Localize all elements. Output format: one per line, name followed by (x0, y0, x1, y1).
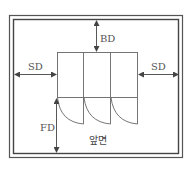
right-side-distance-dimension: SD (139, 61, 178, 75)
door-swing-arc-2 (84, 98, 111, 125)
room-inner-border (14, 20, 179, 154)
sd-left-label: SD (28, 61, 43, 72)
back-distance-dimension: BD (97, 21, 116, 51)
door-swing-arc-1 (58, 98, 84, 125)
sd-right-label: SD (151, 61, 166, 72)
front-distance-dimension: FD (40, 99, 57, 152)
cabinet (58, 53, 138, 125)
cabinet-body (58, 53, 138, 98)
left-side-distance-dimension: SD (15, 61, 56, 75)
door-swing-arc-3 (111, 98, 138, 125)
fd-label: FD (40, 122, 55, 133)
front-side-label: 앞면 (89, 135, 107, 146)
cabinet-clearance-diagram: BD SD SD FD 앞면 (0, 0, 195, 173)
bd-label: BD (100, 33, 115, 44)
